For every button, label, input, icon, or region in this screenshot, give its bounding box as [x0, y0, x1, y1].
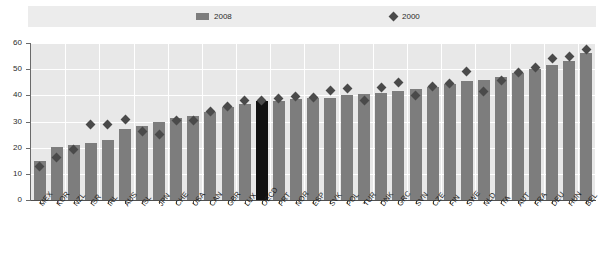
y-axis-tick	[26, 43, 31, 44]
chart-container: 2008 2000 0102030405060MEXKORNZLISRIRLAU…	[0, 0, 604, 259]
gridline-vertical	[441, 43, 442, 200]
gridline-vertical	[236, 43, 237, 200]
bar-esp	[307, 98, 319, 200]
gridline-vertical	[65, 43, 66, 200]
bar-fra	[529, 69, 541, 200]
y-axis-tick-label: 40	[0, 91, 22, 99]
marker-svk	[326, 86, 336, 96]
bar-svn	[410, 89, 422, 200]
bar-prt	[273, 101, 285, 200]
diamond-marker-icon	[389, 12, 399, 22]
bar-nor	[290, 99, 302, 200]
bar-fin	[444, 84, 456, 200]
bar-svk	[324, 98, 336, 200]
gridline-vertical	[544, 43, 545, 200]
y-axis-tick	[26, 200, 31, 201]
gridline-vertical	[373, 43, 374, 200]
gridline-vertical	[475, 43, 476, 200]
gridline-vertical	[99, 43, 100, 200]
marker-swe	[462, 67, 472, 77]
bar-bel	[580, 53, 592, 200]
bar-aut	[512, 73, 524, 200]
legend-label-2008: 2008	[214, 12, 232, 22]
bar-oecd	[256, 101, 268, 200]
bar-deu	[546, 65, 558, 200]
bar-swe	[461, 81, 473, 200]
marker-pol	[343, 84, 353, 94]
y-axis-tick-label: 20	[0, 144, 22, 152]
bar-nld	[478, 80, 490, 200]
gridline-vertical	[510, 43, 511, 200]
plot-area	[31, 43, 595, 200]
y-axis-tick	[26, 174, 31, 175]
y-axis-tick	[26, 69, 31, 70]
bar-lux	[239, 104, 251, 200]
gridline-vertical	[578, 43, 579, 200]
bar-grc	[392, 91, 404, 200]
legend-label-2000: 2000	[402, 12, 420, 22]
bar-can	[204, 112, 216, 200]
bar-che	[170, 118, 182, 200]
marker-deu	[548, 54, 558, 64]
marker-hun	[565, 52, 575, 62]
bar-swatch-icon	[196, 13, 209, 20]
y-axis-tick-label: 30	[0, 118, 22, 126]
bar-ita	[495, 77, 507, 200]
bar-usa	[187, 116, 199, 200]
bar-gbr	[222, 107, 234, 200]
bar-irl	[102, 140, 114, 200]
bar-aus	[119, 129, 131, 200]
gridline-vertical	[304, 43, 305, 200]
bar-tur	[358, 94, 370, 200]
legend-item-2000: 2000	[390, 10, 420, 23]
marker-aus	[121, 115, 131, 125]
bar-cze	[427, 87, 439, 200]
bar-hun	[563, 61, 575, 200]
y-axis-tick	[26, 148, 31, 149]
gridline-vertical	[270, 43, 271, 200]
bar-dnk	[375, 93, 387, 200]
gridline-vertical	[202, 43, 203, 200]
gridline-vertical	[168, 43, 169, 200]
y-axis-tick	[26, 122, 31, 123]
y-axis-tick-label: 60	[0, 39, 22, 47]
marker-grc	[394, 78, 404, 88]
gridline-vertical	[134, 43, 135, 200]
marker-dnk	[377, 83, 387, 93]
legend-item-2008: 2008	[196, 10, 232, 23]
y-axis-tick	[26, 95, 31, 96]
gridline-vertical	[407, 43, 408, 200]
bar-pol	[341, 95, 353, 200]
bar-isl	[136, 126, 148, 200]
y-axis-tick-label: 10	[0, 170, 22, 178]
gridline-vertical	[339, 43, 340, 200]
y-axis-tick-label: 0	[0, 196, 22, 204]
y-axis-tick-label: 50	[0, 65, 22, 73]
chart-legend: 2008 2000	[28, 6, 596, 27]
